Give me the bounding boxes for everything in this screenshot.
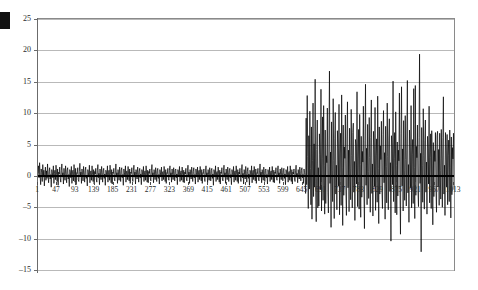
y-tick-label: 15 bbox=[23, 78, 31, 86]
x-tick-label: 967 bbox=[428, 186, 439, 194]
y-tick-label: 0 bbox=[27, 172, 31, 180]
y-tick-mark bbox=[34, 270, 38, 271]
x-tick-label: 1013 bbox=[446, 186, 461, 194]
y-tick-label: 25 bbox=[23, 15, 31, 23]
x-tick-label: 185 bbox=[107, 186, 118, 194]
gridline bbox=[38, 270, 454, 271]
x-tick-label: 599 bbox=[277, 186, 288, 194]
x-tick-label: 829 bbox=[372, 186, 383, 194]
x-axis-labels: 1479313918523127732336941546150755359964… bbox=[37, 182, 455, 196]
chart-figure: 2520151050–5–10–15 147931391852312773233… bbox=[0, 0, 478, 290]
x-tick-label: 507 bbox=[239, 186, 250, 194]
x-tick-label: 93 bbox=[71, 186, 79, 194]
x-tick-label: 691 bbox=[315, 186, 326, 194]
x-tick-label: 369 bbox=[183, 186, 194, 194]
y-tick-label: –15 bbox=[19, 266, 31, 274]
x-tick-label: 323 bbox=[164, 186, 175, 194]
y-tick-label: 20 bbox=[23, 46, 31, 54]
x-tick-label: 277 bbox=[145, 186, 156, 194]
y-tick-label: –5 bbox=[23, 203, 31, 211]
x-tick-label: 921 bbox=[410, 186, 421, 194]
series-line bbox=[38, 19, 454, 270]
y-tick-label: –10 bbox=[19, 235, 31, 243]
plot-area: 2520151050–5–10–15 bbox=[37, 18, 455, 271]
x-tick-label: 783 bbox=[353, 186, 364, 194]
x-tick-label: 415 bbox=[202, 186, 213, 194]
series-polyline bbox=[38, 54, 454, 252]
x-tick-label: 875 bbox=[391, 186, 402, 194]
x-tick-label: 1 bbox=[35, 186, 39, 194]
y-tick-label: 10 bbox=[23, 109, 31, 117]
x-tick-label: 47 bbox=[52, 186, 60, 194]
y-tick-label: 5 bbox=[27, 141, 31, 149]
x-tick-label: 553 bbox=[258, 186, 269, 194]
x-tick-label: 645 bbox=[296, 186, 307, 194]
x-tick-label: 231 bbox=[126, 186, 137, 194]
x-tick-label: 461 bbox=[220, 186, 231, 194]
x-tick-label: 737 bbox=[334, 186, 345, 194]
corner-marker-block bbox=[0, 12, 10, 29]
x-tick-label: 139 bbox=[88, 186, 99, 194]
